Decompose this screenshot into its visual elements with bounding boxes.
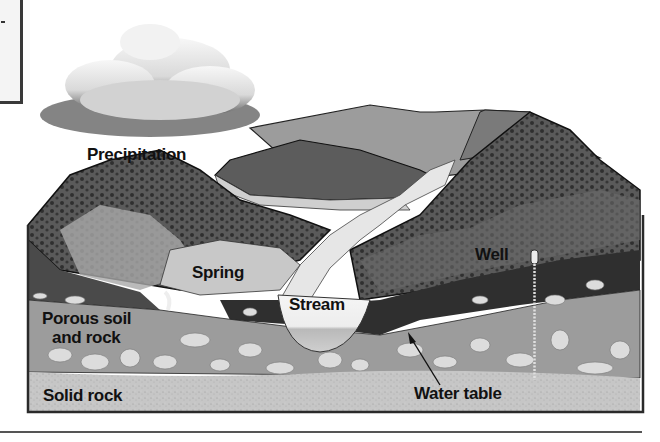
label-spring: Spring (192, 264, 244, 282)
label-stream: Stream (289, 296, 345, 314)
label-porous-soil-line1: Porous soil (42, 310, 131, 328)
label-well: Well (475, 246, 508, 264)
label-solid-rock: Solid rock (43, 387, 122, 405)
label-precipitation: Precipitation (87, 146, 186, 164)
label-water-table: Water table (414, 385, 502, 403)
groundwater-diagram (0, 0, 660, 442)
bottom-divider-line (0, 431, 642, 433)
cloud (40, 24, 260, 137)
label-porous-soil-line2: and rock (52, 329, 120, 347)
